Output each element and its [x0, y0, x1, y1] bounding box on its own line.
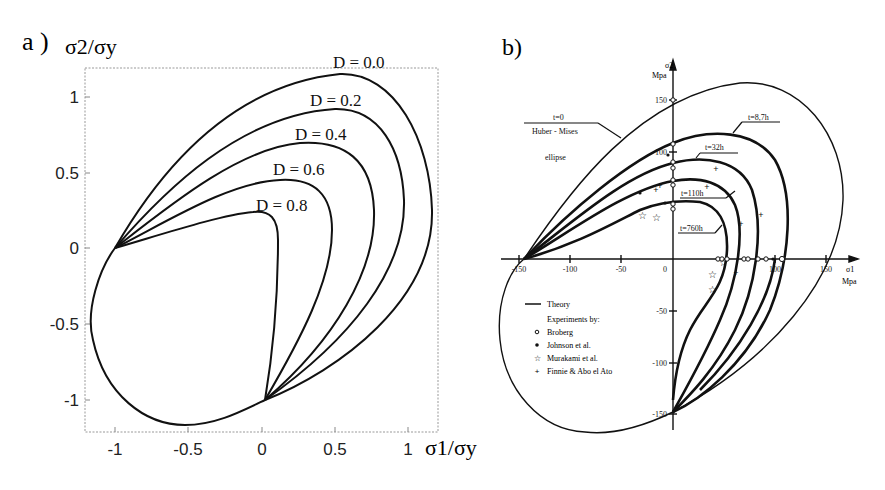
svg-text:☆: ☆ — [652, 212, 661, 223]
annotation-t-32h: t=32h — [705, 143, 724, 152]
panel-b-x-axis-label: σ1 — [846, 265, 854, 274]
svg-text:+: + — [713, 164, 718, 174]
curve-label-d-0-2: D = 0.2 — [310, 91, 362, 110]
legend-broberg: Broberg — [547, 328, 573, 337]
svg-text:+: + — [704, 182, 709, 192]
legend-broberg-marker — [535, 330, 539, 334]
svg-text:+: + — [657, 181, 662, 191]
x-tick-label: 0 — [257, 440, 266, 459]
legend-murakami: Murakami et al. — [547, 354, 598, 363]
x-tick-label: -1 — [107, 440, 122, 459]
x-tick-label: 1 — [403, 440, 412, 459]
svg-text:+: + — [738, 219, 743, 229]
panel-b: b) σ2 Mpa σ1 Mpa -150 -100 -50 0 100 150 — [499, 34, 858, 433]
x-tick-label: 0.5 — [323, 440, 347, 459]
annotation-t-760h: t=760h — [680, 224, 703, 233]
svg-text:☆: ☆ — [719, 257, 728, 268]
svg-text:+: + — [733, 268, 738, 278]
panel-b-y-axis-label: σ2 — [665, 61, 673, 70]
damage-curves — [91, 74, 432, 425]
curve-label-d-0-0: D = 0.0 — [333, 53, 385, 72]
curve-label-d-0-4: D = 0.4 — [295, 125, 347, 144]
y-tick-label: 150 — [655, 96, 667, 105]
y-ticks-a — [85, 97, 90, 432]
y-tick-label: 0.5 — [55, 164, 79, 183]
legend-finnie: Finnie & Abo el Ato — [547, 367, 612, 376]
panel-b-y-unit: Mpa — [652, 71, 667, 80]
panel-b-x-unit: Mpa — [842, 277, 857, 286]
svg-text:☆: ☆ — [638, 210, 647, 221]
svg-text:☆: ☆ — [708, 269, 717, 280]
annotation-t-110h: t=110h — [681, 189, 703, 198]
y-tick-label: -50 — [656, 307, 667, 316]
legend-experiments-header: Experiments by: — [547, 315, 600, 324]
svg-text:+: + — [758, 210, 763, 220]
annotation-huber-mises: Huber - Mises — [532, 127, 578, 136]
curve-common-lower — [91, 248, 265, 425]
panel-a: a ) σ2/σy 1 0.5 0 -0.5 -1 — [22, 27, 477, 460]
annotation-t0: t=0 — [553, 113, 564, 122]
legend-johnson: Johnson et al. — [547, 341, 591, 350]
curve-label-d-0-8: D = 0.8 — [256, 196, 308, 215]
panel-b-label: b) — [502, 34, 522, 60]
markers-johnson — [638, 153, 774, 260]
panel-a-label: a ) — [22, 27, 49, 56]
curve-d-0-8 — [115, 212, 278, 400]
y-tick-label: 1 — [70, 88, 79, 107]
x-tick-label: 0 — [663, 265, 667, 274]
x-tick-label: -100 — [563, 265, 578, 274]
curve-label-d-0-6: D = 0.6 — [273, 160, 325, 179]
legend-finnie-marker: + — [535, 367, 540, 376]
legend-b: Theory Experiments by: Broberg Johnson e… — [525, 300, 612, 376]
x-ticks-a — [115, 427, 408, 432]
legend-johnson-marker — [535, 343, 539, 347]
y-tick-label: -0.5 — [50, 315, 79, 334]
panel-a-y-axis-label: σ2/σy — [65, 34, 117, 59]
x-tick-label: -0.5 — [173, 440, 202, 459]
legend-theory: Theory — [547, 300, 570, 309]
annotation-t-8-7h: t=8,7h — [748, 113, 769, 122]
svg-text:☆: ☆ — [708, 284, 717, 295]
y-tick-label: -100 — [652, 359, 667, 368]
y-tick-label: 0 — [70, 239, 79, 258]
plot-frame-a — [85, 68, 438, 432]
x-tick-label: -50 — [616, 265, 627, 274]
markers-murakami: ☆☆ ☆☆☆ — [638, 210, 728, 295]
y-tick-label: -1 — [64, 391, 79, 410]
legend-murakami-marker: ☆ — [534, 354, 541, 363]
annotation-ellipse: ellipse — [545, 153, 566, 162]
panel-a-x-axis-label: σ1/σy — [425, 435, 477, 460]
